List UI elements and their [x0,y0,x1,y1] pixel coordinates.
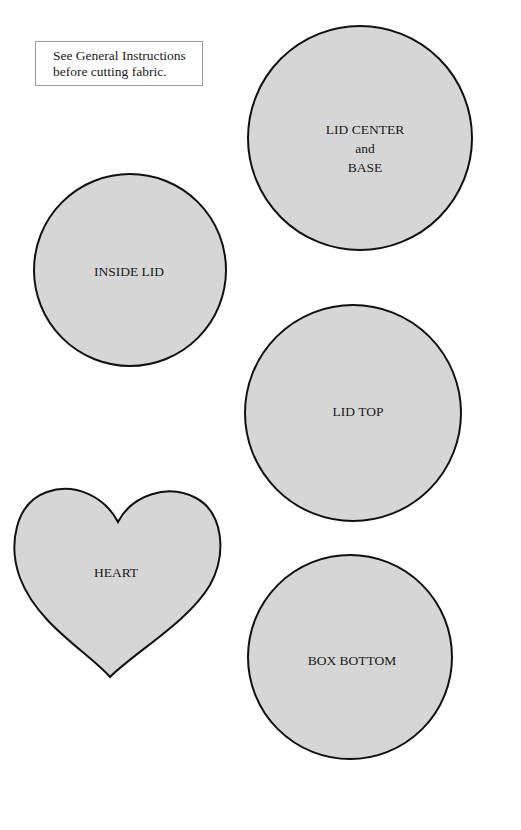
lid-center-base-label: LID CENTER and BASE [326,120,404,177]
lid-top-label: LID TOP [333,402,384,421]
label-line: LID CENTER [326,120,404,139]
heart-pattern [14,489,220,677]
pattern-pieces [0,0,521,830]
label-line: BASE [326,158,404,177]
heart-label: HEART [94,563,138,582]
label-line: INSIDE LID [94,262,164,281]
label-line: HEART [94,563,138,582]
box-bottom-label: BOX BOTTOM [308,651,397,670]
label-line: and [326,139,404,158]
label-line: LID TOP [333,402,384,421]
inside-lid-label: INSIDE LID [94,262,164,281]
label-line: BOX BOTTOM [308,651,397,670]
